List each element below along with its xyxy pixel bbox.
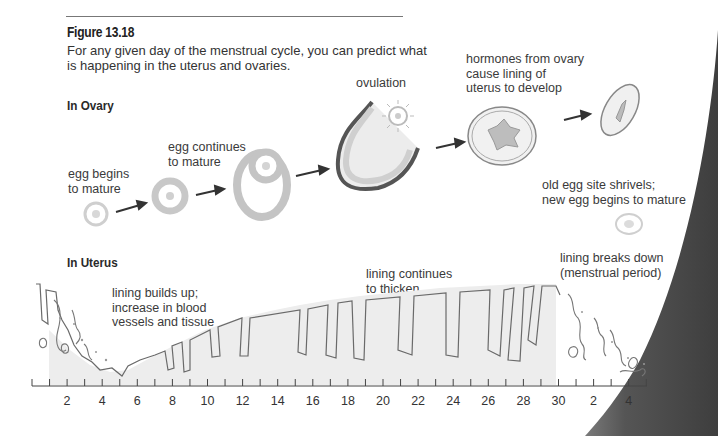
- axis-tick-label: 30: [552, 394, 566, 408]
- axis-tick-label: 16: [306, 394, 320, 408]
- axis-tick-label: 10: [201, 394, 215, 408]
- axis-tick-label: 26: [481, 394, 495, 408]
- axis-tick-label: 18: [341, 394, 355, 408]
- axis-tick-label: 14: [271, 394, 285, 408]
- axis-tick-label: 24: [446, 394, 460, 408]
- axis-tick-label: 12: [236, 394, 250, 408]
- axis-tick-label: 20: [376, 394, 390, 408]
- axis-tick-label: 22: [411, 394, 425, 408]
- axis-tick-label: 2: [64, 394, 71, 408]
- axis-tick-label: 2: [590, 394, 597, 408]
- axis-tick-label: 6: [134, 394, 141, 408]
- day-axis: [0, 0, 718, 436]
- axis-tick-label: 8: [169, 394, 176, 408]
- axis-tick-label: 28: [516, 394, 530, 408]
- axis-tick-label: 4: [99, 394, 106, 408]
- axis-tick-label: 4: [625, 394, 632, 408]
